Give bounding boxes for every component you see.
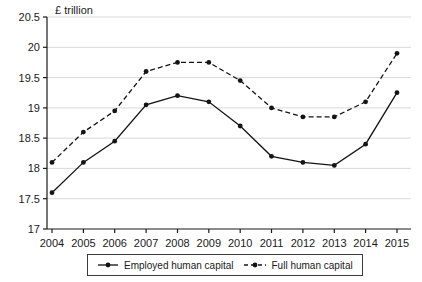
x-axis: 2004200520062007200820092010201120122013… [40,229,411,249]
data-point-marker [50,160,55,165]
legend: Employed human capital Full human capita… [87,254,363,276]
x-tick-label: 2011 [260,237,284,249]
data-point-marker [238,124,243,129]
y-tick-label: 18.5 [19,132,40,144]
human-capital-line-chart: £ trillion 1717.51818.51919.52020.5 2004… [0,0,422,282]
data-point-marker [144,69,149,74]
data-point-marker [332,115,337,120]
y-tick-label: 17 [28,223,40,235]
solid-line-dot-icon [97,260,119,270]
data-point-marker [269,106,274,111]
x-tick-label: 2008 [165,237,189,249]
y-tick-label: 19 [28,102,40,114]
data-point-marker [81,130,86,135]
legend-item-full: Full human capital [243,260,353,271]
x-tick-label: 2010 [228,237,252,249]
gridlines [47,17,411,199]
y-tick-label: 19.5 [19,72,40,84]
data-point-marker [269,154,274,159]
data-point-marker [112,109,117,114]
series-employed [50,90,400,195]
data-point-marker [238,78,243,83]
data-point-marker [175,60,180,65]
data-point-marker [301,160,306,165]
data-point-marker [301,115,306,120]
data-point-marker [206,99,211,104]
data-point-marker [50,190,55,195]
x-tick-label: 2009 [197,237,221,249]
x-tick-label: 2005 [71,237,95,249]
x-tick-label: 2004 [40,237,64,249]
y-axis-title: £ trillion [55,4,93,16]
data-point-marker [395,51,400,56]
legend-item-employed: Employed human capital [97,260,234,271]
data-point-marker [112,139,117,144]
x-tick-label: 2006 [102,237,126,249]
x-tick-label: 2007 [134,237,158,249]
data-point-marker [144,102,149,107]
y-tick-label: 20.5 [19,11,40,23]
data-point-marker [332,163,337,168]
y-tick-label: 17.5 [19,193,40,205]
x-tick-label: 2013 [322,237,346,249]
legend-label-employed: Employed human capital [124,260,234,271]
y-tick-label: 18 [28,162,40,174]
dashed-line-dot-icon [243,260,267,270]
x-tick-label: 2012 [291,237,315,249]
legend-label-full: Full human capital [272,260,353,271]
data-point-marker [363,99,368,104]
y-tick-label: 20 [28,41,40,53]
data-point-marker [81,160,86,165]
data-point-marker [363,142,368,147]
data-point-marker [206,60,211,65]
plot-area: £ trillion 1717.51818.51919.52020.5 2004… [0,0,422,252]
data-point-marker [175,93,180,98]
y-axis: 1717.51818.51919.52020.5 [19,11,47,235]
data-point-marker [395,90,400,95]
x-tick-label: 2015 [385,237,409,249]
x-tick-label: 2014 [353,237,377,249]
